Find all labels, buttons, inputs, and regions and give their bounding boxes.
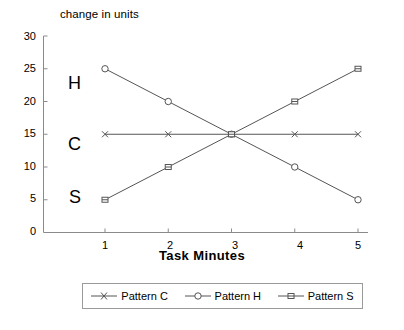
marker-pattern-s-2 <box>165 165 171 170</box>
marker-pattern-h-2 <box>165 98 171 104</box>
legend-item-1[interactable]: Pattern H <box>185 290 261 302</box>
legend-item-0[interactable]: Pattern C <box>91 290 167 302</box>
marker-pattern-s-1 <box>102 197 108 202</box>
legend-label-1: Pattern H <box>215 290 261 302</box>
legend-marker-pattern-c-icon <box>91 290 117 302</box>
plot-area <box>0 0 404 330</box>
legend-label-2: Pattern S <box>308 290 354 302</box>
legend-item-2[interactable]: Pattern S <box>278 290 354 302</box>
marker-pattern-h-5 <box>355 197 361 203</box>
marker-pattern-s-4 <box>292 99 298 104</box>
legend-marker-pattern-h-icon <box>185 290 211 302</box>
legend: Pattern C Pattern H Pattern S <box>82 283 363 309</box>
legend-marker-pattern-s-icon <box>278 290 304 302</box>
marker-pattern-s-5 <box>355 66 361 71</box>
marker-pattern-s-3 <box>229 132 235 137</box>
legend-label-0: Pattern C <box>121 290 167 302</box>
marker-pattern-h-1 <box>102 66 108 72</box>
marker-pattern-h-4 <box>292 164 298 170</box>
chart-container: change in units 30 25 20 15 10 5 0 1 2 3… <box>0 0 404 330</box>
